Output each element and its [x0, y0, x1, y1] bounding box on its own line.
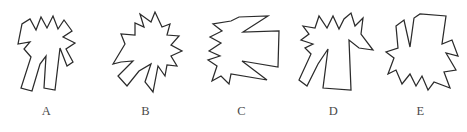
figure-cell-b: B [99, 0, 192, 132]
figure-cell-e: E [374, 0, 467, 132]
figure-shape-c [195, 4, 288, 98]
figure-polygon-c [208, 16, 279, 84]
figure-polygon-e [386, 14, 458, 90]
figure-polygon-b [113, 12, 182, 92]
figure-label-b: B [99, 103, 192, 119]
figure-shape-e [374, 4, 467, 98]
figure-shape-b [99, 4, 192, 98]
figure-label-d: D [287, 103, 380, 119]
mental-rotation-stimulus-sheet: A B C D E [0, 0, 467, 132]
figure-label-e: E [374, 103, 467, 119]
figure-cell-d: D [287, 0, 380, 132]
figure-label-c: C [195, 103, 288, 119]
figure-shape-d [287, 4, 380, 98]
figure-polygon-d [299, 13, 373, 90]
figure-label-a: A [0, 103, 93, 119]
figure-cell-a: A [0, 0, 93, 132]
figure-polygon-a [18, 16, 75, 91]
figure-cell-c: C [195, 0, 288, 132]
figure-shape-a [0, 4, 93, 98]
